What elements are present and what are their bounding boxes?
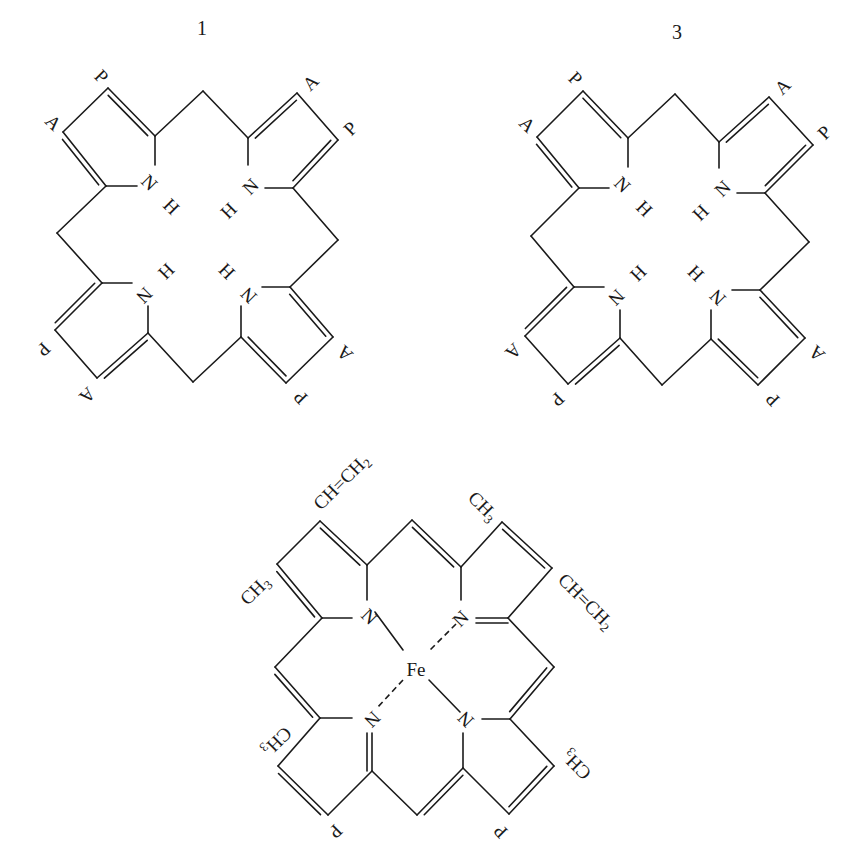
p1-double-bond-second <box>290 294 326 336</box>
substituent-label: A <box>75 383 100 408</box>
p3-double-bond-second <box>718 339 757 378</box>
p3-double-bond-second <box>760 297 798 337</box>
heme-double-bond <box>509 766 554 814</box>
substituent-label: P <box>761 388 783 410</box>
heme-double-bond-second <box>509 766 547 806</box>
substituent-label: A <box>501 339 526 364</box>
p3-single-bond <box>537 91 583 137</box>
p3-double-bond <box>583 91 628 138</box>
nitrogen-atom-label: N <box>705 285 730 310</box>
nitrogen-atom-label: N <box>453 707 478 732</box>
heme-double-bond <box>412 520 461 567</box>
heme-double-bond-second <box>320 528 359 565</box>
p1-single-bond <box>57 233 102 283</box>
heme-single-bond <box>375 612 403 650</box>
substituent-label: A <box>804 341 829 366</box>
p3-single-bond <box>531 236 574 287</box>
heme-single-bond <box>461 522 502 567</box>
p3-single-bond <box>765 193 809 242</box>
p3-double-bond-second <box>525 287 566 328</box>
substituent-label: P <box>546 388 568 410</box>
heme-single-bond <box>367 520 412 565</box>
substituent-label: A <box>515 112 540 137</box>
p3-single-bond <box>675 94 719 142</box>
p3-double-bond <box>568 338 620 384</box>
substituent-label: P <box>813 121 835 143</box>
nitrogen-atom-label: N <box>137 170 162 195</box>
substituent-label: CH3 <box>256 721 296 761</box>
structure-number-label: 1 <box>197 17 207 39</box>
p3-single-bond <box>769 97 813 145</box>
p3-single-bond <box>628 94 675 138</box>
p3-single-bond <box>531 188 579 236</box>
p1-double-bond-second <box>104 340 147 378</box>
substituent-label: P <box>324 820 346 842</box>
heme-single-bond <box>275 618 322 667</box>
heme-single-bond <box>372 771 417 815</box>
nitrogen-atom-label: N <box>710 176 735 201</box>
p1-double-bond-second <box>108 95 147 135</box>
p1-double-bond-second <box>293 140 331 180</box>
substituent-label: P <box>90 65 112 87</box>
nitrogen-atom-label: N <box>610 172 635 197</box>
p1-single-bond <box>290 240 338 287</box>
heme-double-bond <box>277 564 322 618</box>
p3-double-bond-second <box>583 98 621 137</box>
heme-single-bond <box>277 521 320 564</box>
p3-double-bond <box>711 339 758 385</box>
hydrogen-atom-label: H <box>632 196 657 221</box>
p3-double-bond-second <box>575 345 619 384</box>
p3-double-bond <box>765 145 813 193</box>
iron-atom-label: Fe <box>407 659 426 680</box>
substituent-label: P <box>289 386 311 408</box>
p3-double-bond-second <box>765 145 805 185</box>
p1-double-bond-second <box>55 283 94 322</box>
p1-double-bond-second <box>255 100 296 138</box>
bond-lines <box>55 88 813 815</box>
heme-single-bond <box>429 680 460 712</box>
p3-double-bond <box>525 287 574 336</box>
p3-single-bond <box>758 338 805 385</box>
p3-single-bond <box>760 242 809 290</box>
p1-double-bond <box>290 287 333 337</box>
p1-double-bond <box>55 283 102 330</box>
substituent-label: CH3 <box>557 744 597 784</box>
p1-double-bond <box>293 140 338 188</box>
heme-single-bond <box>463 768 509 814</box>
heme-double-bond <box>278 766 328 815</box>
hydrogen-atom-label: H <box>626 261 651 286</box>
heme-double-bond <box>275 667 320 718</box>
heme-single-bond <box>508 568 552 618</box>
p3-double-bond <box>760 290 805 338</box>
substituent-label: P <box>489 820 511 842</box>
heme-coordination-bond <box>377 680 403 708</box>
p1-double-bond <box>63 132 106 186</box>
hydrogen-atom-label: H <box>683 261 708 286</box>
p1-single-bond <box>203 91 248 138</box>
p1-single-bond <box>193 337 241 382</box>
heme-double-bond-second <box>424 775 463 814</box>
heme-double-bond <box>320 521 367 565</box>
p3-single-bond <box>525 336 568 384</box>
p1-double-bond <box>241 337 286 383</box>
p1-double-bond-second <box>248 337 286 376</box>
heme-double-bond-second <box>412 527 453 566</box>
hydrogen-atom-label: H <box>688 200 713 225</box>
heme-coordination-bond <box>428 624 456 652</box>
p1-double-bond <box>97 333 148 378</box>
heme-double-bond-second <box>279 773 321 814</box>
heme-double-bond <box>510 667 554 719</box>
p3-double-bond-second <box>537 144 572 187</box>
substituent-label: CH3 <box>462 487 502 527</box>
substituent-label: CH3 <box>236 571 276 611</box>
structure-number-label: 3 <box>672 21 682 43</box>
heme-double-bond <box>502 522 552 568</box>
heme-double-bond <box>417 768 463 815</box>
heme-double-bond-second <box>277 572 315 617</box>
heme-single-bond <box>328 771 372 815</box>
p3-double-bond-second <box>726 104 768 142</box>
p1-single-bond <box>63 88 108 132</box>
hydrogen-atom-label: H <box>216 198 241 223</box>
p1-single-bond <box>55 330 97 378</box>
p1-single-bond <box>293 188 338 240</box>
